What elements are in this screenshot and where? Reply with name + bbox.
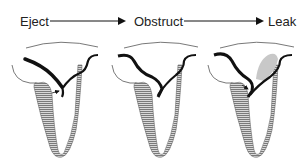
heart-panel-eject [12, 42, 98, 157]
eject-obstruct-leak-diagram [0, 0, 301, 163]
arrow-obstruct-to-leak [184, 17, 264, 25]
heart-panel-leak [208, 42, 294, 157]
heart-panel-obstruct [112, 42, 198, 157]
arrow-eject-to-obstruct [50, 17, 126, 25]
